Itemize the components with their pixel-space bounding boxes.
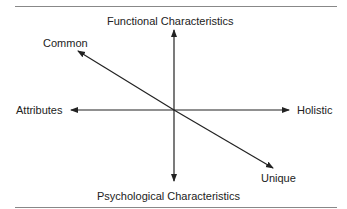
positioning-diagram: Functional Characteristics Common Attrib… bbox=[0, 0, 347, 209]
label-functional: Functional Characteristics bbox=[107, 15, 234, 27]
diagonal-axis-unique bbox=[174, 110, 273, 168]
label-attributes: Attributes bbox=[16, 104, 62, 116]
label-unique: Unique bbox=[261, 172, 296, 184]
label-common: Common bbox=[43, 37, 88, 49]
label-psychological: Psychological Characteristics bbox=[97, 190, 240, 202]
label-holistic: Holistic bbox=[297, 104, 332, 116]
diagonal-axis-common bbox=[78, 51, 174, 110]
